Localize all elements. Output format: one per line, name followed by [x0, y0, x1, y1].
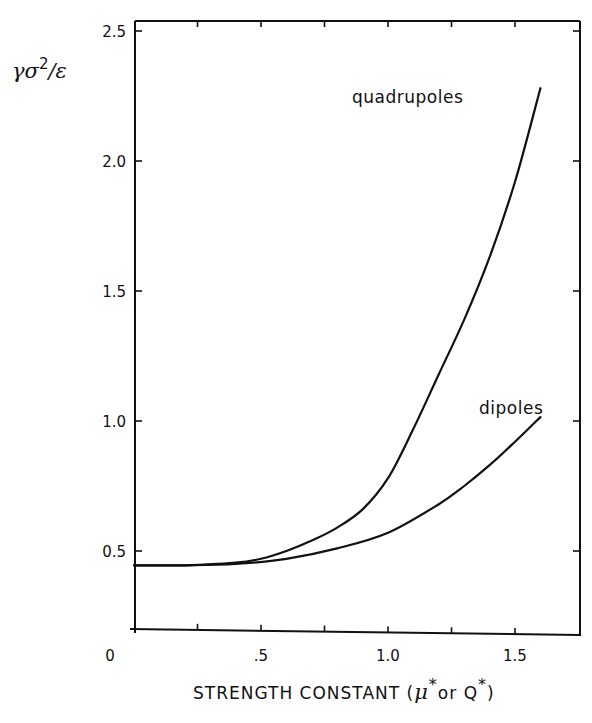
y-tick-label: 1.0	[102, 413, 126, 431]
x-axis-label: STRENGTH CONSTANT (μ*or Q*)	[193, 675, 495, 704]
data-series	[134, 88, 540, 565]
chart: 0.51.01.50.51.01.52.02.5 quadrupolesdipo…	[0, 0, 592, 723]
series-label-dipoles: dipoles	[479, 398, 543, 418]
y-tick-label: 2.0	[102, 153, 126, 171]
x-tick-label: 1.5	[503, 647, 527, 665]
y-tick-label: 2.5	[102, 23, 126, 41]
x-tick-label: 0	[105, 647, 115, 665]
series-labels: quadrupolesdipoles	[352, 87, 543, 418]
series-label-quadrupoles: quadrupoles	[352, 87, 463, 107]
y-tick-label: 1.5	[102, 283, 126, 301]
series-line-dipoles	[134, 417, 540, 565]
y-axis-label: γσ2/ε	[12, 55, 67, 83]
x-tick-label: 1.0	[376, 647, 400, 665]
bottom-axis-line	[130, 629, 580, 635]
axis-tick-labels: 0.51.01.50.51.01.52.02.5	[102, 23, 527, 665]
series-line-quadrupoles	[134, 88, 540, 565]
y-tick-label: 0.5	[102, 543, 126, 561]
x-tick-label: .5	[254, 647, 268, 665]
